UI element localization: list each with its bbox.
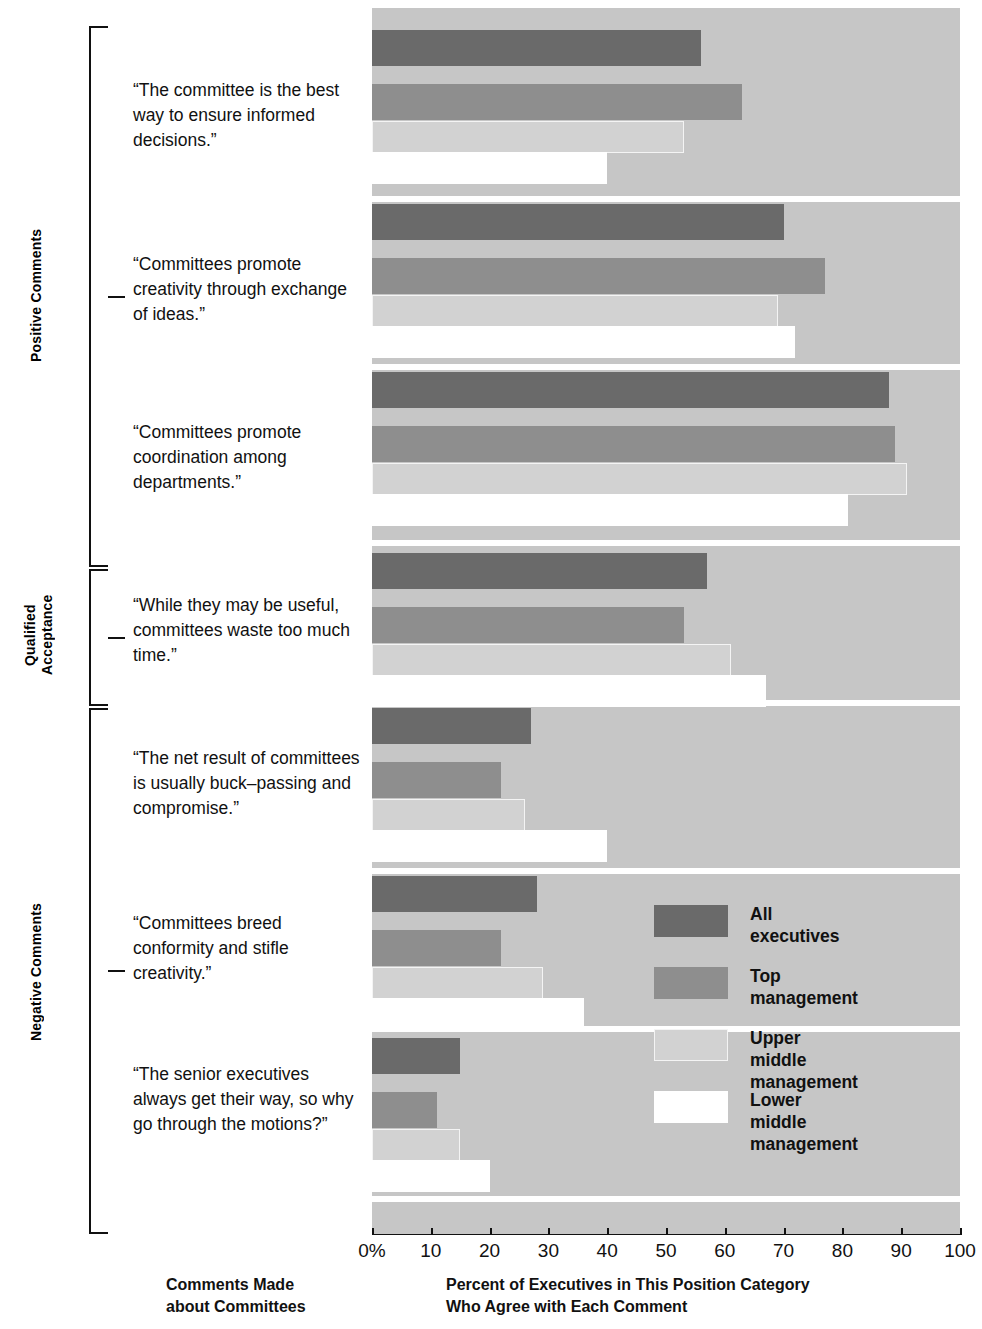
x-tick-40 <box>607 1228 609 1235</box>
x-tick-10 <box>431 1228 433 1235</box>
bar-c5-s1 <box>372 930 501 966</box>
band-separator-4 <box>372 868 960 874</box>
group-bracket-negative <box>89 708 108 1234</box>
bar-c1-s1 <box>372 258 825 294</box>
group-bracket-positive <box>89 26 108 567</box>
x-tick-label-60: 60 <box>714 1240 735 1262</box>
group-label-negative: Negative Comments <box>28 880 45 1065</box>
bar-c5-s2 <box>372 967 543 999</box>
legend-label: Top management <box>750 965 858 1009</box>
bar-c1-s3 <box>372 326 795 358</box>
x-tick-label-10: 10 <box>420 1240 441 1262</box>
bar-c2-s3 <box>372 494 848 526</box>
comment-label-3: “While they may be useful, committees wa… <box>133 593 363 668</box>
bar-c1-s0 <box>372 204 784 240</box>
bar-c0-s1 <box>372 84 742 120</box>
x-tick-20 <box>490 1228 492 1235</box>
comment-label-4: “The net result of committees is usually… <box>133 746 363 821</box>
bar-c1-s2 <box>372 295 778 327</box>
comment-label-5: “Committees breed conformity and stifle … <box>133 911 363 986</box>
bar-c3-s2 <box>372 644 731 676</box>
bar-c2-s0 <box>372 372 889 408</box>
y-axis-title: Comments Made about Committees <box>166 1274 306 1318</box>
group-bracket-qualified <box>89 569 108 706</box>
x-tick-label-80: 80 <box>832 1240 853 1262</box>
x-tick-60 <box>725 1228 727 1235</box>
bar-c4-s3 <box>372 830 607 862</box>
x-tick-label-30: 30 <box>538 1240 559 1262</box>
bracket-stem <box>108 637 125 639</box>
x-tick-100 <box>960 1228 962 1235</box>
comment-label-2: “Committees promote coordination among d… <box>133 420 363 495</box>
bar-c2-s2 <box>372 463 907 495</box>
x-tick-label-100: 100 <box>944 1240 976 1262</box>
x-tick-label-0: 0% <box>358 1240 385 1262</box>
x-tick-50 <box>666 1228 668 1235</box>
chart-figure: Positive Comments Qualified Acceptance N… <box>0 0 982 1329</box>
legend-swatch-icon <box>654 1091 728 1123</box>
legend-swatch-icon <box>654 905 728 937</box>
bar-c2-s1 <box>372 426 895 462</box>
bar-c0-s2 <box>372 121 684 153</box>
legend-label: Upper middle management <box>750 1027 858 1093</box>
group-label-positive: Positive Comments <box>28 205 45 385</box>
band-separator-1 <box>372 364 960 370</box>
bar-c0-s0 <box>372 30 701 66</box>
x-tick-0 <box>372 1228 374 1235</box>
comment-label-1: “Committees promote creativity through e… <box>133 252 363 327</box>
bar-c3-s1 <box>372 607 684 643</box>
bar-c6-s0 <box>372 1038 460 1074</box>
x-tick-label-70: 70 <box>773 1240 794 1262</box>
band-separator-3 <box>372 700 960 706</box>
x-axis-title: Percent of Executives in This Position C… <box>446 1274 810 1318</box>
bar-c6-s3 <box>372 1160 490 1192</box>
comment-label-0: “The committee is the best way to ensure… <box>133 78 363 153</box>
band-separator-0 <box>372 196 960 202</box>
legend-label: All executives <box>750 903 840 947</box>
x-tick-80 <box>842 1228 844 1235</box>
x-tick-70 <box>784 1228 786 1235</box>
bar-c0-s3 <box>372 152 607 184</box>
bar-c3-s0 <box>372 553 707 589</box>
bar-c5-s0 <box>372 876 537 912</box>
bar-c4-s1 <box>372 762 501 798</box>
bracket-stem <box>108 970 125 972</box>
x-tick-label-90: 90 <box>891 1240 912 1262</box>
x-tick-90 <box>901 1228 903 1235</box>
comment-label-6: “The senior executives always get their … <box>133 1062 363 1137</box>
bar-c4-s0 <box>372 708 531 744</box>
bar-c6-s1 <box>372 1092 437 1128</box>
x-tick-label-40: 40 <box>597 1240 618 1262</box>
group-label-qualified: Qualified Acceptance <box>22 572 56 698</box>
x-tick-30 <box>548 1228 550 1235</box>
x-tick-label-20: 20 <box>479 1240 500 1262</box>
band-separator-2 <box>372 540 960 546</box>
band-separator-6 <box>372 1196 960 1202</box>
bracket-stem <box>108 296 125 298</box>
legend-label: Lower middle management <box>750 1089 858 1155</box>
bar-c4-s2 <box>372 799 525 831</box>
bar-c6-s2 <box>372 1129 460 1161</box>
legend-swatch-icon <box>654 967 728 999</box>
x-tick-label-50: 50 <box>655 1240 676 1262</box>
legend-swatch-icon <box>654 1029 728 1061</box>
